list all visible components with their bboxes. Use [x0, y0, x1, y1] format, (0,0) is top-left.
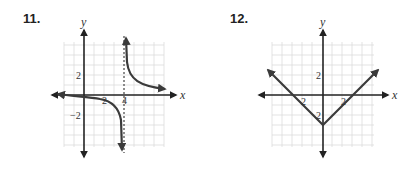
graph-12-tick-y-2: 2 — [316, 70, 321, 81]
graph-11-left-branch — [58, 94, 122, 150]
graph-11-x-label: x — [179, 88, 186, 102]
graph-11-right-branch — [126, 38, 165, 89]
graph-12: x y 2 2 2 2 — [259, 15, 398, 157]
graph-11-tick-y-2: 2 — [76, 70, 81, 81]
graph-11: x y 2 4 2 −2 — [52, 15, 186, 157]
graph-12-x-label: x — [391, 88, 398, 102]
graph-11-tick-x-4: 4 — [122, 95, 127, 106]
graph-11-y-label: y — [80, 15, 87, 29]
graph-12-tick-x-2: 2 — [341, 96, 346, 107]
graphs-canvas: x y 2 4 2 −2 x y 2 2 2 2 — [0, 0, 419, 170]
graph-12-y-label: y — [319, 15, 326, 29]
graph-12-tick-y-neg2: 2 — [316, 110, 321, 121]
graph-11-tick-x-2: 2 — [102, 95, 107, 106]
graph-12-tick-x-neg2: 2 — [301, 96, 306, 107]
graph-11-tick-y-neg2: −2 — [70, 110, 81, 121]
